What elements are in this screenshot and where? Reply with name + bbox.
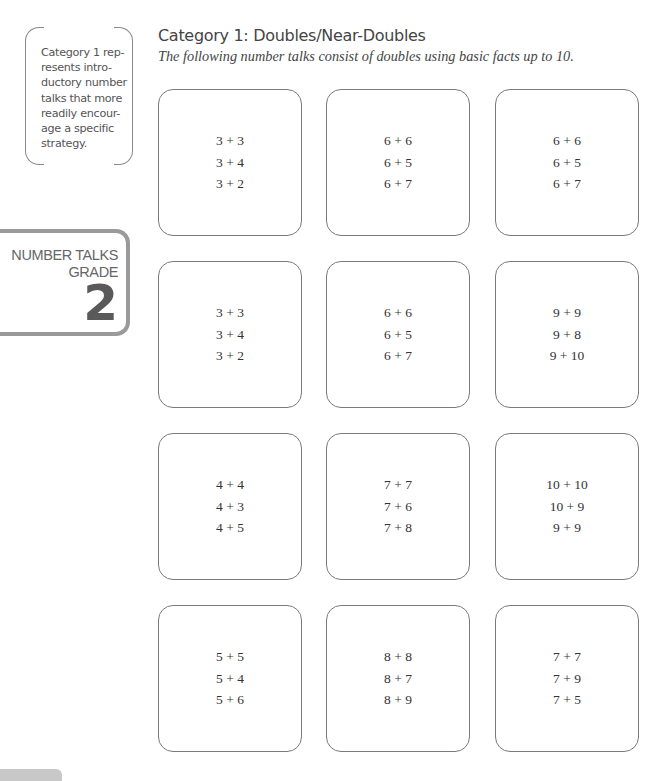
page-edge-tab (0, 769, 62, 781)
number-fact: 6 + 5 (384, 324, 412, 346)
number-fact: 8 + 7 (384, 668, 412, 690)
number-fact: 9 + 9 (553, 302, 581, 324)
number-fact: 5 + 4 (216, 668, 244, 690)
note-line: strategy. (41, 136, 129, 151)
number-fact: 8 + 9 (384, 689, 412, 711)
number-fact: 8 + 8 (384, 646, 412, 668)
grade-number: 2 (83, 276, 118, 330)
number-fact: 6 + 6 (384, 130, 412, 152)
category-note-text: Category 1 rep- resents intro- ductory n… (41, 45, 129, 151)
number-talk-card: 3 + 33 + 43 + 2 (158, 89, 302, 236)
note-line: readily encour- (41, 106, 129, 121)
number-fact: 3 + 3 (216, 130, 244, 152)
number-fact: 6 + 5 (384, 152, 412, 174)
number-talk-card: 10 + 1010 + 99 + 9 (495, 433, 639, 580)
note-line: age a specific (41, 121, 129, 136)
number-fact: 3 + 3 (216, 302, 244, 324)
number-talk-card: 6 + 66 + 56 + 7 (326, 261, 470, 408)
number-fact: 7 + 5 (553, 689, 581, 711)
number-fact: 6 + 7 (553, 173, 581, 195)
number-fact: 6 + 7 (384, 173, 412, 195)
number-fact: 6 + 6 (553, 130, 581, 152)
number-fact: 7 + 9 (553, 668, 581, 690)
number-talk-card: 6 + 66 + 56 + 7 (495, 89, 639, 236)
number-fact: 9 + 10 (550, 345, 585, 367)
number-fact: 10 + 9 (550, 496, 585, 518)
category-note-box: Category 1 rep- resents intro- ductory n… (25, 27, 133, 165)
number-fact: 4 + 5 (216, 517, 244, 539)
number-fact: 9 + 9 (553, 517, 581, 539)
number-talk-card: 9 + 99 + 89 + 10 (495, 261, 639, 408)
note-line: talks that more (41, 91, 129, 106)
number-talk-card: 6 + 66 + 56 + 7 (326, 89, 470, 236)
grade-badge: NUMBER TALKS GRADE 2 (0, 229, 130, 336)
page-subtitle: The following number talks consist of do… (158, 48, 574, 65)
number-fact: 10 + 10 (546, 474, 587, 496)
number-fact: 6 + 7 (384, 345, 412, 367)
number-fact: 7 + 7 (384, 474, 412, 496)
page-title: Category 1: Doubles/Near-Doubles (158, 26, 426, 45)
number-fact: 7 + 8 (384, 517, 412, 539)
note-line: Category 1 rep- (41, 45, 129, 60)
number-fact: 7 + 7 (553, 646, 581, 668)
number-talk-card: 3 + 33 + 43 + 2 (158, 261, 302, 408)
number-fact: 3 + 4 (216, 152, 244, 174)
number-talk-card: 5 + 55 + 45 + 6 (158, 605, 302, 752)
number-fact: 6 + 6 (384, 302, 412, 324)
number-fact: 3 + 2 (216, 173, 244, 195)
number-fact: 4 + 4 (216, 474, 244, 496)
number-fact: 5 + 5 (216, 646, 244, 668)
badge-series-title: NUMBER TALKS (11, 247, 118, 264)
note-line: ductory number (41, 75, 129, 90)
number-fact: 3 + 2 (216, 345, 244, 367)
number-fact: 9 + 8 (553, 324, 581, 346)
number-talk-card: 4 + 44 + 34 + 5 (158, 433, 302, 580)
number-fact: 7 + 6 (384, 496, 412, 518)
number-fact: 4 + 3 (216, 496, 244, 518)
number-talk-card: 8 + 88 + 78 + 9 (326, 605, 470, 752)
number-talk-card: 7 + 77 + 97 + 5 (495, 605, 639, 752)
number-talk-card: 7 + 77 + 67 + 8 (326, 433, 470, 580)
number-fact: 5 + 6 (216, 689, 244, 711)
number-fact: 6 + 5 (553, 152, 581, 174)
number-fact: 3 + 4 (216, 324, 244, 346)
note-line: resents intro- (41, 60, 129, 75)
